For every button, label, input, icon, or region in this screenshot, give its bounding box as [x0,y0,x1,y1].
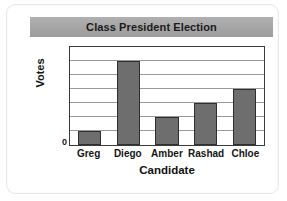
y-axis-title: Votes [34,43,46,103]
chart-page: Class President Election Votes 0 GregDie… [0,0,287,201]
bar-diego [117,61,140,145]
x-tick-label-diego: Diego [108,148,147,159]
x-tick-label-amber: Amber [148,148,187,159]
chart-title: Class President Election [86,21,217,33]
plot-area [69,46,265,146]
bar-slot [225,47,263,145]
bar-series [70,47,264,145]
chart-card: Class President Election Votes 0 GregDie… [6,4,279,194]
bar-amber [155,117,178,145]
chart-title-band: Class President Election [30,17,273,37]
bar-chloe [233,89,256,145]
bar-greg [78,131,101,145]
x-tick-label-greg: Greg [69,148,108,159]
bar-rashad [194,103,217,145]
bar-slot [70,47,108,145]
x-axis-tick-labels: GregDiegoAmberRashadChloe [69,148,265,159]
bar-slot [187,47,225,145]
x-axis-title: Candidate [69,164,265,176]
x-tick-label-rashad: Rashad [187,148,226,159]
y-axis-origin-label: 0 [57,137,67,147]
bar-slot [109,47,147,145]
bar-slot [148,47,186,145]
x-tick-label-chloe: Chloe [226,148,265,159]
